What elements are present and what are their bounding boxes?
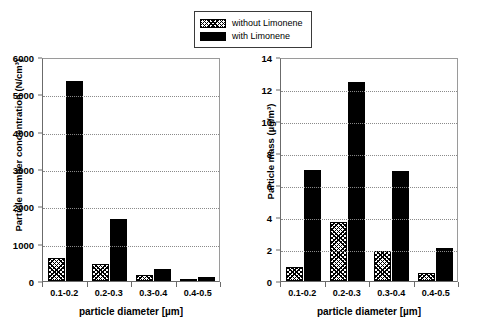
x-tick-mark [325, 282, 326, 287]
gridline [281, 219, 457, 220]
x-tick-label: 0.2-0.3 [325, 288, 370, 298]
x-tick-label: 0.2-0.3 [87, 288, 132, 298]
bar-group [281, 59, 325, 281]
y-tick-label: 6000 [13, 53, 34, 64]
bar-group [413, 59, 457, 281]
gridline [281, 155, 457, 156]
legend-entry-without-limonene: without Limonene [200, 17, 303, 29]
bar [180, 279, 197, 281]
gridline [43, 246, 219, 247]
y-tick-label: 3000 [13, 165, 34, 176]
x-tick-mark [131, 282, 132, 287]
x-tick-mark [458, 282, 459, 287]
bar-group [175, 59, 219, 281]
legend-swatch-hatch-icon [200, 19, 226, 28]
bar [154, 269, 171, 281]
bar [374, 251, 391, 281]
x-tick-mark [280, 282, 281, 287]
x-tick-label: 0.1-0.2 [280, 288, 325, 298]
x-tick-mark [42, 282, 43, 287]
x-tick-label: 0.3-0.4 [369, 288, 414, 298]
gridline [281, 187, 457, 188]
gridline [281, 251, 457, 252]
plot-area-left [42, 58, 220, 282]
x-tick-mark [87, 282, 88, 287]
gridline [43, 208, 219, 209]
x-tick-mark [369, 282, 370, 287]
x-axis-title-left: particle diameter [µm] [42, 306, 220, 317]
x-axis-ticks-right [280, 282, 458, 287]
bar-group [131, 59, 175, 281]
gridline [43, 96, 219, 97]
x-tick-mark [414, 282, 415, 287]
legend-swatch-solid-icon [200, 32, 226, 41]
y-tick-label: 0 [29, 277, 34, 288]
y-tick-label: 0 [267, 277, 272, 288]
legend-entry-with-limonene: with Limonene [200, 30, 303, 42]
x-tick-label: 0.1-0.2 [42, 288, 87, 298]
y-tick-label: 2 [267, 245, 272, 256]
bar [198, 277, 215, 281]
y-tick-label: 4 [267, 213, 272, 224]
x-axis-title-right: particle diameter [µm] [280, 306, 458, 317]
x-tick-label: 0.3-0.4 [131, 288, 176, 298]
y-tick-label: 6 [267, 181, 272, 192]
bar-groups-right [281, 59, 457, 281]
y-tick-label: 1000 [13, 239, 34, 250]
x-axis-labels-right: 0.1-0.20.2-0.30.3-0.40.4-0.5 [280, 288, 458, 298]
x-tick-mark [176, 282, 177, 287]
legend-label-with-limonene: with Limonene [232, 31, 290, 41]
gridline [281, 91, 457, 92]
bar [92, 264, 109, 281]
bar-groups-left [43, 59, 219, 281]
bar-group [87, 59, 131, 281]
bar [418, 273, 435, 281]
y-tick-label: 14 [261, 53, 272, 64]
y-tick-label: 5000 [13, 90, 34, 101]
bar [110, 219, 127, 281]
gridline [43, 134, 219, 135]
x-axis-labels-left: 0.1-0.20.2-0.30.3-0.40.4-0.5 [42, 288, 220, 298]
bar-group [43, 59, 87, 281]
bar [436, 248, 453, 281]
y-tick-label: 4000 [13, 127, 34, 138]
bar [136, 275, 153, 281]
chart-panel-particle-mass: Particle mass (µg/m³) 02468101214 0.1-0.… [240, 50, 472, 325]
x-tick-label: 0.4-0.5 [414, 288, 459, 298]
x-axis-ticks-left [42, 282, 220, 287]
gridline [43, 171, 219, 172]
y-tick-label: 10 [261, 117, 272, 128]
y-tick-label: 8 [267, 149, 272, 160]
bar-group [325, 59, 369, 281]
gridline [281, 123, 457, 124]
y-tick-label: 2000 [13, 202, 34, 213]
legend-label-without-limonene: without Limonene [232, 18, 303, 28]
chart-legend: without Limonene with Limonene [194, 11, 312, 48]
bar [286, 267, 303, 281]
chart-panel-particle-number-concentration: Particle number concentration (N/cm³) 01… [2, 50, 234, 325]
bar-group [369, 59, 413, 281]
x-tick-mark [220, 282, 221, 287]
y-axis-ticks-left: 0100020003000400050006000 [2, 58, 38, 282]
bar [66, 81, 83, 281]
bar [48, 258, 65, 281]
x-tick-label: 0.4-0.5 [176, 288, 221, 298]
plot-area-right [280, 58, 458, 282]
y-axis-ticks-right: 02468101214 [240, 58, 276, 282]
y-tick-label: 12 [261, 85, 272, 96]
